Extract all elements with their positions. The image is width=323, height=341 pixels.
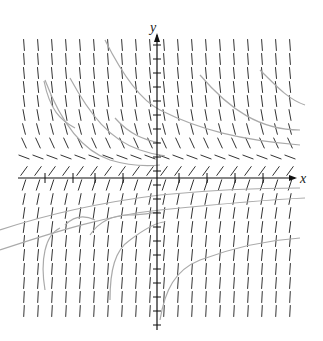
slope-segment [147,167,153,176]
slope-segment [65,82,66,93]
slope-segment [107,82,108,93]
slope-segment [19,155,29,159]
slope-segment [205,222,206,233]
slope-segment [65,194,67,205]
slope-segment [38,40,39,51]
slope-segment [150,264,151,275]
slope-segment [66,68,67,79]
slope-segment [275,208,277,219]
slope-segment [289,110,291,121]
slope-segment [23,208,25,219]
slope-segment [173,155,183,159]
x-axis-label: x [299,171,307,186]
slope-segment [192,264,193,275]
slope-segment [22,180,25,190]
slope-segment [178,54,179,65]
slope-segment [80,54,81,65]
slope-segment [91,167,97,176]
slope-segment [37,96,38,107]
slope-segment [63,167,69,176]
slope-segment [122,250,123,261]
slope-segment [234,292,235,303]
slope-segment [37,82,38,93]
slope-segment [122,306,123,317]
slope-segment [107,208,109,219]
slope-segment [117,155,127,159]
slope-segment [23,96,24,107]
slope-segment [164,236,165,247]
slope-segment [247,124,250,135]
slope-segment [64,180,67,190]
slope-segment [149,124,152,135]
slope-segment [233,110,235,121]
slope-segment [261,208,263,219]
slope-segment [203,167,209,176]
slope-segment [50,138,55,148]
slope-segment [108,236,109,247]
slope-segment [178,292,179,303]
slope-segment [80,40,81,51]
slope-segment [290,264,291,275]
slope-segment [149,82,150,93]
slope-segment [220,278,221,289]
slope-segment [191,194,193,205]
slope-segment [36,138,41,148]
slope-segment [261,124,264,135]
slope-segment [206,278,207,289]
slope-segment [150,68,151,79]
slope-segment [23,194,25,205]
slope-segment [135,124,138,135]
slope-segment [246,138,251,148]
slope-segment [220,236,221,247]
solution-curves [0,40,305,320]
slope-segment [191,110,193,121]
slope-segment [131,155,141,159]
slope-segment [38,68,39,79]
slope-segment [80,264,81,275]
slope-segment [122,278,123,289]
slope-segment [288,138,293,148]
slope-segment [79,222,80,233]
slope-segment [49,167,55,176]
slope-segment [121,110,123,121]
slope-segment [122,236,123,247]
slope-segment [271,155,281,159]
slope-segment [92,138,97,148]
slope-segment [218,180,221,190]
slope-segment [290,250,291,261]
slope-segment [150,250,151,261]
slope-segment [233,82,234,93]
slope-segment [247,208,249,219]
slope-segment [136,292,137,303]
slope-segment [219,110,221,121]
y-axis-label: y [148,20,157,35]
slope-segment [24,40,25,51]
slope-segment [262,292,263,303]
slope-segment [93,208,95,219]
slope-segment [77,167,83,176]
slope-segment [231,167,237,176]
slope-segment [205,82,206,93]
slope-segment [219,194,221,205]
axis-ticks [45,45,263,325]
slope-segment [121,194,123,205]
slope-segment [150,278,151,289]
slope-segment [65,96,66,107]
slope-segment [248,40,249,51]
slope-segment [247,82,248,93]
slope-segment [79,82,80,93]
slope-segment [248,54,249,65]
slope-segment [232,138,237,148]
slope-segment [79,124,82,135]
slope-segment [149,96,150,107]
slope-segment [192,236,193,247]
slope-segment [164,278,165,289]
slope-segment [290,236,291,247]
slope-segment [178,236,179,247]
slope-segment [52,306,53,317]
slope-segment [219,82,220,93]
slope-segment [206,292,207,303]
slope-segment [66,40,67,51]
slope-segment [176,138,181,148]
slope-segment [122,54,123,65]
